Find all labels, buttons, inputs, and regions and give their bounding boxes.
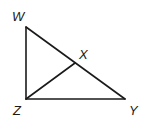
segment-zx — [26, 63, 75, 99]
vertex-label-x: X — [78, 47, 89, 62]
vertex-label-y: Y — [129, 103, 139, 118]
vertex-label-w: W — [12, 9, 26, 24]
vertex-label-z: Z — [12, 103, 22, 118]
triangle-diagram: W X Z Y — [0, 0, 145, 120]
